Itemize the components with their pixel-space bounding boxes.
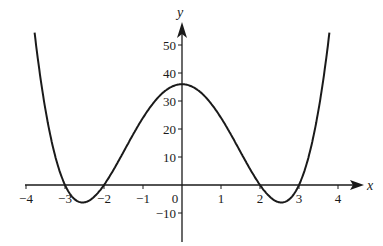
- chart: −4−3−2−101234−101020304050 x y: [0, 0, 383, 246]
- x-tick-label: 3: [296, 191, 303, 206]
- x-tick-label: −1: [136, 191, 150, 206]
- y-tick-label: 20: [163, 122, 176, 137]
- axes: [25, 22, 364, 242]
- y-tick-label: 50: [163, 38, 176, 53]
- x-tick-label: 0: [172, 191, 179, 206]
- x-axis-label: x: [366, 178, 374, 193]
- y-tick-label: 10: [163, 150, 176, 165]
- y-axis-label: y: [175, 5, 184, 20]
- x-tick-label: −4: [19, 191, 33, 206]
- x-tick-label: 1: [218, 191, 225, 206]
- y-tick-label: 40: [163, 66, 176, 81]
- x-tick-label: 4: [335, 191, 342, 206]
- x-tick-label: 2: [257, 191, 264, 206]
- y-tick-label: −10: [156, 206, 176, 221]
- x-tick-label: −2: [97, 191, 111, 206]
- y-tick-label: 30: [163, 94, 176, 109]
